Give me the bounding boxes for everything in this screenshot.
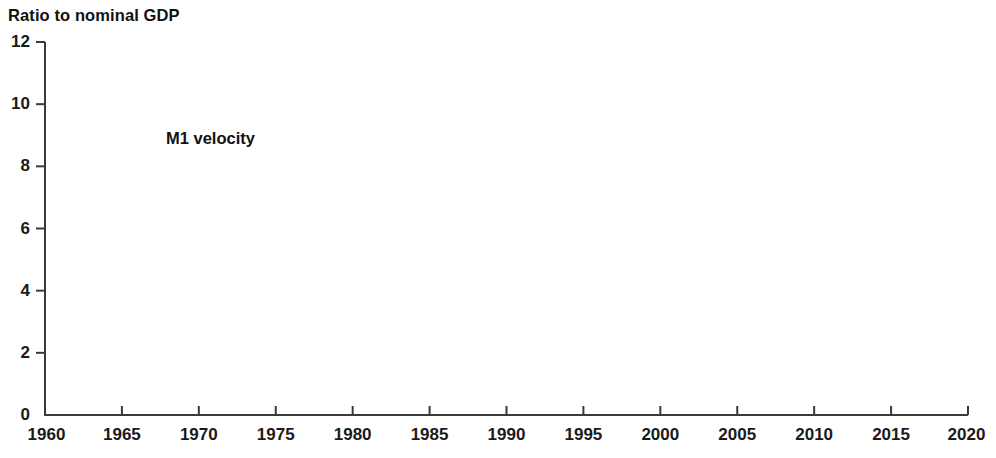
- legend-label-m1-velocity: M1 velocity: [166, 129, 255, 148]
- x-axis-tick-label: 2000: [641, 425, 679, 445]
- x-axis-tick-label: 1985: [411, 425, 449, 445]
- axis-lines: [45, 42, 968, 415]
- y-axis-tick-label: 10: [0, 94, 30, 114]
- y-axis-tick-label: 12: [0, 32, 30, 52]
- chart-plot-area: [0, 0, 996, 458]
- x-axis-tick-label: 1980: [334, 425, 372, 445]
- x-axis-tick-label: 2020: [948, 425, 986, 445]
- x-axis-ticks: [122, 406, 968, 415]
- y-axis-tick-label: 4: [0, 281, 30, 301]
- y-axis-ticks: [36, 42, 45, 353]
- legend-swatch-m1-velocity: [112, 135, 156, 142]
- x-axis-tick-label: 1965: [103, 425, 141, 445]
- x-axis-tick-label: 1970: [180, 425, 218, 445]
- x-axis-tick-label: 2005: [718, 425, 756, 445]
- chart-legend: M1 velocity: [112, 129, 255, 148]
- y-axis-tick-label: 6: [0, 219, 30, 239]
- x-axis-tick-label: 2010: [795, 425, 833, 445]
- y-axis-tick-label: 8: [0, 156, 30, 176]
- x-axis-tick-label: 1995: [564, 425, 602, 445]
- y-axis-tick-label: 0: [0, 405, 30, 425]
- y-axis-tick-label: 2: [0, 343, 30, 363]
- x-axis-tick-label: 1960: [28, 425, 66, 445]
- data-line-m1-velocity: [45, 80, 953, 297]
- x-axis-tick-label: 1975: [257, 425, 295, 445]
- x-axis-tick-label: 2015: [872, 425, 910, 445]
- chart-container: Ratio to nominal GDP 024681012 196019651…: [0, 0, 996, 458]
- x-axis-tick-label: 1990: [488, 425, 526, 445]
